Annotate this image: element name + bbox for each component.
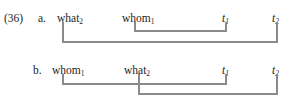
token-whom-b: whom1 — [52, 64, 85, 78]
token-what-a-subscript: 2 — [79, 17, 83, 26]
token-t1-b-subscript: 1 — [225, 69, 229, 78]
token-t2-a-subscript: 2 — [275, 17, 279, 26]
token-whom-a-subscript: 1 — [151, 17, 155, 26]
token-t2-b: t2 — [272, 64, 279, 78]
row-b-dependency-link-what2-t2 — [139, 74, 277, 94]
token-what-a: what2 — [57, 12, 83, 26]
token-t1-a: t1 — [222, 12, 229, 26]
example-number: (36) — [4, 12, 23, 24]
row-a-dependency-link-what2-t2 — [63, 22, 277, 42]
token-whom-a: whom1 — [122, 12, 155, 26]
token-whom-b-base: whom — [52, 64, 81, 76]
token-what-b-base: what — [124, 64, 146, 76]
token-what-b: what2 — [124, 64, 150, 78]
token-t2-a: t2 — [272, 12, 279, 26]
row-label-b: b. — [33, 64, 42, 76]
token-t2-b-subscript: 2 — [275, 69, 279, 78]
row-label-a: a. — [38, 12, 46, 24]
token-whom-b-subscript: 1 — [81, 69, 85, 78]
token-whom-a-base: whom — [122, 12, 151, 24]
token-what-b-subscript: 2 — [146, 69, 150, 78]
token-t1-b: t1 — [222, 64, 229, 78]
example-figure: (36) a. b. what2whom1t1t2 whom1what2t1t2 — [0, 0, 287, 102]
token-t1-a-subscript: 1 — [225, 17, 229, 26]
token-what-a-base: what — [57, 12, 79, 24]
